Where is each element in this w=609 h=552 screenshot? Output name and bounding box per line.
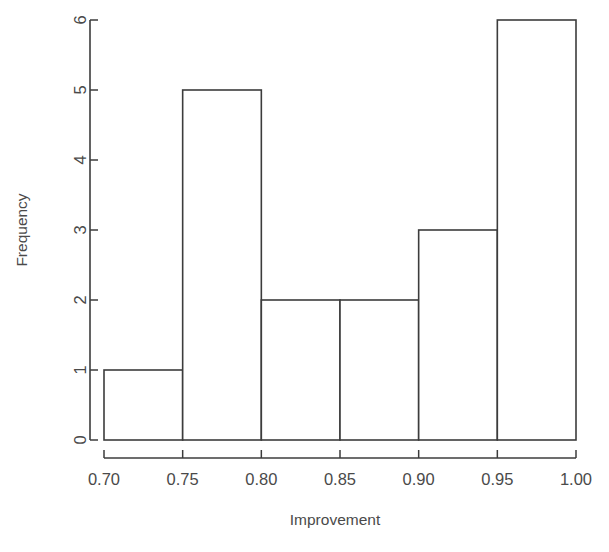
y-tick-label: 2 <box>71 295 89 304</box>
y-tick-label: 6 <box>71 15 89 24</box>
x-axis-ticks <box>104 450 576 458</box>
histogram-bar <box>261 300 340 440</box>
x-tick-label: 0.95 <box>481 470 513 488</box>
histogram-bar <box>104 370 183 440</box>
x-tick-label: 0.75 <box>167 470 199 488</box>
x-axis-title: Improvement <box>290 511 381 528</box>
histogram-bar <box>497 20 576 440</box>
x-axis: 0.700.750.800.850.900.951.00 <box>88 450 592 488</box>
y-axis-ticks <box>90 20 98 440</box>
histogram-figure: 0123456 0.700.750.800.850.900.951.00 Imp… <box>0 0 609 552</box>
x-tick-label: 1.00 <box>560 470 592 488</box>
x-axis-tick-labels: 0.700.750.800.850.900.951.00 <box>88 470 592 488</box>
histogram-bar <box>419 230 498 440</box>
y-tick-label: 1 <box>71 365 89 374</box>
y-tick-label: 3 <box>71 225 89 234</box>
histogram-bars <box>104 20 576 440</box>
x-tick-label: 0.70 <box>88 470 120 488</box>
y-axis-title: Frequency <box>13 193 30 266</box>
histogram-plot: 0123456 0.700.750.800.850.900.951.00 Imp… <box>0 0 609 552</box>
y-axis-tick-labels: 0123456 <box>71 15 89 444</box>
histogram-bar <box>340 300 419 440</box>
y-tick-label: 5 <box>71 85 89 94</box>
y-axis: 0123456 <box>71 15 98 444</box>
histogram-bar <box>183 90 262 440</box>
x-tick-label: 0.90 <box>403 470 435 488</box>
y-tick-label: 0 <box>71 435 89 444</box>
x-tick-label: 0.85 <box>324 470 356 488</box>
x-tick-label: 0.80 <box>245 470 277 488</box>
y-tick-label: 4 <box>71 155 89 164</box>
